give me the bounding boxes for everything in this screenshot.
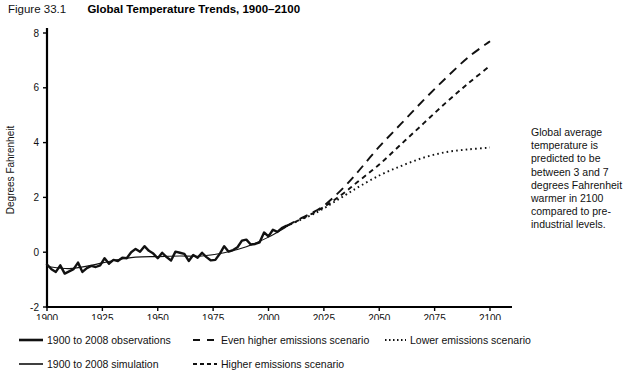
x-axis-tick-label: 2025 <box>313 313 336 320</box>
y-axis-tick-label: 4 <box>33 137 39 148</box>
chart-annotation-text: Global average temperature is predicted … <box>531 126 627 232</box>
legend-item: Even higher emissions scenario <box>192 334 369 346</box>
legend-swatch-dotted <box>381 334 407 346</box>
x-axis-tick-label: 1900 <box>36 313 59 320</box>
legend-swatch-long-dash <box>192 334 218 346</box>
legend-row: 1900 to 2008 simulationHigher emissions … <box>0 358 628 380</box>
axis-spines <box>47 28 512 307</box>
x-axis-tick-label: 2075 <box>424 313 447 320</box>
legend-item-label: Even higher emissions scenario <box>221 334 369 346</box>
legend-item-label: Higher emissions scenario <box>221 358 344 370</box>
figure-header: Figure 33.1 Global Temperature Trends, 1… <box>8 2 300 16</box>
y-axis-tick-label: 8 <box>33 28 39 39</box>
legend-swatch-short-dash <box>192 358 218 370</box>
legend-item: Higher emissions scenario <box>192 358 344 370</box>
x-axis-tick-label: 1925 <box>91 313 114 320</box>
chart-legend: 1900 to 2008 observationsEven higher emi… <box>0 332 628 380</box>
chart-series-line <box>47 227 286 269</box>
legend-item-label: Lower emissions scenario <box>410 334 531 346</box>
page-title: Global Temperature Trends, 1900–2100 <box>87 3 300 15</box>
chart-plot-area: -202468190019251950197520002025205020752… <box>0 20 515 320</box>
chart-series-line <box>286 148 490 227</box>
y-axis-tick-label: -2 <box>30 302 39 313</box>
y-axis-title: Degrees Fahrenheit <box>5 126 16 215</box>
y-axis-tick-label: 6 <box>33 82 39 93</box>
legend-row: 1900 to 2008 observationsEven higher emi… <box>0 334 628 356</box>
x-axis-tick-label: 2050 <box>368 313 391 320</box>
temperature-trends-chart: -202468190019251950197520002025205020752… <box>0 20 515 320</box>
y-axis-tick-label: 2 <box>33 192 39 203</box>
legend-item-label: 1900 to 2008 simulation <box>47 358 159 370</box>
legend-item: 1900 to 2008 observations <box>18 334 171 346</box>
chart-series-line <box>286 41 490 226</box>
x-axis-tick-label: 1950 <box>147 313 170 320</box>
figure-number: Figure 33.1 <box>8 3 66 15</box>
chart-series-line <box>286 66 490 226</box>
y-axis-tick-label: 0 <box>33 247 39 258</box>
x-axis-tick-label: 2100 <box>479 313 502 320</box>
legend-item-label: 1900 to 2008 observations <box>47 334 171 346</box>
legend-swatch-solid-thick <box>18 334 44 346</box>
x-axis-tick-label: 1975 <box>202 313 225 320</box>
legend-swatch-solid-thin <box>18 358 44 370</box>
legend-item: Lower emissions scenario <box>381 334 531 346</box>
x-axis-tick-label: 2000 <box>257 313 280 320</box>
legend-item: 1900 to 2008 simulation <box>18 358 159 370</box>
